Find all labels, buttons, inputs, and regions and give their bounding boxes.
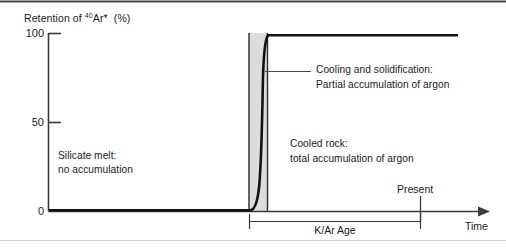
cooling-annotation-line-1: Cooling and solidification: (316, 64, 433, 77)
x-axis-label-time: Time (465, 220, 488, 233)
cooling-annotation-line-2: Partial accumulation of argon (316, 79, 449, 92)
silicate-melt-annotation-line-1: Silicate melt: (58, 150, 116, 163)
y-axis-title-isotope: Ar* (93, 12, 108, 24)
y-axis-label-0: 0 (10, 205, 44, 219)
cooled-rock-annotation-line-1: Cooled rock: (290, 138, 348, 151)
argon-retention-diagram: Retention of 40Ar* (%) 100 50 0 Silicate… (0, 0, 506, 249)
y-axis-title-isotope-superscript: 40 (85, 12, 93, 19)
kar-age-label: K/Ar Age (249, 224, 421, 237)
y-axis-label-100: 100 (10, 27, 44, 41)
y-axis-title: Retention of 40Ar* (%) (24, 12, 130, 25)
y-axis-title-unit: (%) (114, 12, 131, 24)
present-label: Present (397, 183, 433, 196)
cooled-rock-annotation-line-2: total accumulation of argon (290, 153, 414, 166)
silicate-melt-annotation-line-2: no accumulation (58, 164, 133, 177)
x-axis-arrowhead (478, 207, 490, 217)
diagram-canvas (0, 0, 506, 249)
y-axis-title-prefix: Retention of (24, 12, 85, 24)
y-axis-label-50: 50 (10, 116, 44, 130)
